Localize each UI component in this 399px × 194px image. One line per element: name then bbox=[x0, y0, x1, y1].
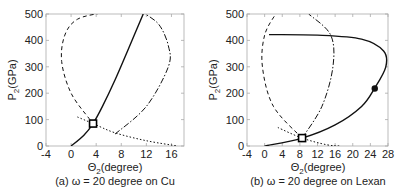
chart-panel-a: -404812160100200300400500P2(GPa)Θ2(degre… bbox=[6, 8, 184, 187]
figure: -404812160100200300400500P2(GPa)Θ2(degre… bbox=[0, 0, 399, 194]
y-tick-label: 500 bbox=[226, 8, 244, 20]
x-tick-label: 0 bbox=[262, 148, 268, 160]
y-tick-label: 400 bbox=[226, 34, 244, 46]
x-tick-label: 24 bbox=[364, 148, 376, 160]
y-axis-label: P2(GPa) bbox=[6, 59, 21, 100]
circle-marker bbox=[372, 85, 378, 91]
chart-panel-b: -404812162024280100200300400500P2(GPa)Θ2… bbox=[207, 8, 394, 187]
series-dashed bbox=[61, 9, 121, 120]
x-tick-label: 16 bbox=[165, 148, 177, 160]
x-tick-label: 28 bbox=[382, 148, 394, 160]
series-solid bbox=[265, 35, 387, 146]
x-tick-label: 12 bbox=[140, 148, 152, 160]
x-tick-label: 0 bbox=[68, 148, 74, 160]
series-dash-dot bbox=[115, 13, 170, 134]
plot-frame bbox=[247, 14, 388, 146]
panel-caption: (b) ω = 20 degree on Lexan bbox=[250, 175, 386, 187]
x-tick-label: 4 bbox=[279, 148, 285, 160]
series-dotted bbox=[278, 128, 340, 146]
y-tick-label: 100 bbox=[25, 114, 43, 126]
square-marker bbox=[299, 135, 306, 142]
x-tick-label: 8 bbox=[297, 148, 303, 160]
y-tick-label: 200 bbox=[226, 87, 244, 99]
x-tick-label: 8 bbox=[118, 148, 124, 160]
series-dashed bbox=[262, 14, 302, 138]
x-tick-label: 20 bbox=[347, 148, 359, 160]
y-tick-label: 0 bbox=[238, 140, 244, 152]
y-axis-label: P2(GPa) bbox=[207, 59, 222, 100]
panel-caption: (a) ω = 20 degree on Cu bbox=[55, 175, 175, 187]
series-solid bbox=[71, 14, 143, 146]
x-tick-label: 12 bbox=[311, 148, 323, 160]
x-axis-label: Θ2(degree) bbox=[88, 161, 143, 176]
square-marker bbox=[90, 120, 97, 127]
series-dash-dot bbox=[302, 14, 334, 138]
y-tick-label: 300 bbox=[226, 61, 244, 73]
y-tick-label: 400 bbox=[25, 34, 43, 46]
y-tick-label: 0 bbox=[37, 140, 43, 152]
x-tick-label: 4 bbox=[93, 148, 99, 160]
x-tick-label: 16 bbox=[329, 148, 341, 160]
y-tick-label: 300 bbox=[25, 61, 43, 73]
y-tick-label: 200 bbox=[25, 87, 43, 99]
x-axis-label: Θ2(degree) bbox=[291, 161, 346, 176]
y-tick-label: 500 bbox=[25, 8, 43, 20]
y-tick-label: 100 bbox=[226, 114, 244, 126]
